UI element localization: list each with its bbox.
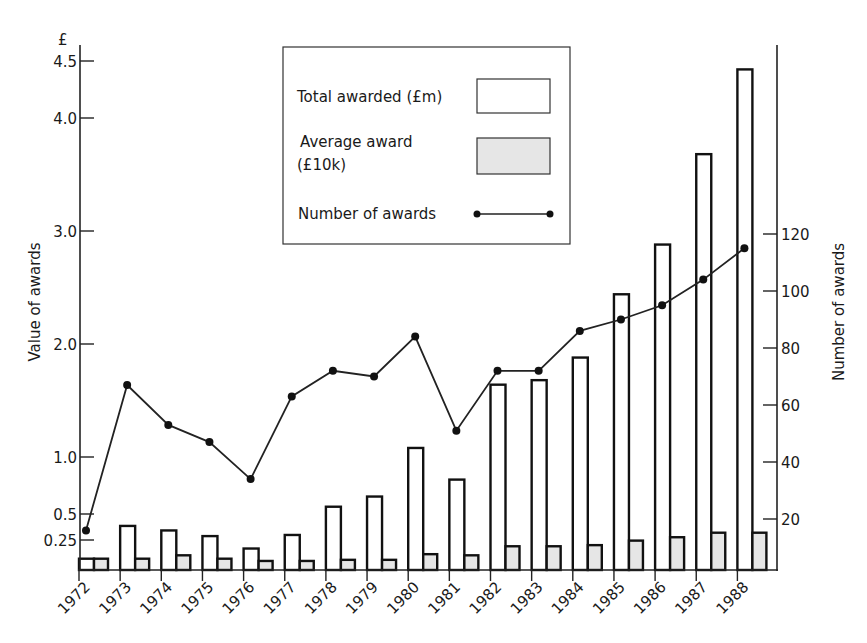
legend-swatch-total (477, 79, 550, 113)
right-tick-label: 40 (781, 454, 800, 472)
bar-total-1974 (161, 530, 176, 570)
x-label-1981: 1981 (424, 578, 464, 618)
bar-total-1978 (326, 507, 341, 570)
x-label-1988: 1988 (712, 578, 752, 618)
x-label-1986: 1986 (630, 578, 670, 618)
bar-total-1975 (202, 536, 217, 570)
data-point-dot-icon (494, 367, 502, 375)
data-point-dot-icon (411, 333, 419, 341)
x-label-1984: 1984 (548, 578, 588, 618)
x-label-1975: 1975 (178, 578, 218, 618)
bar-total-1972 (79, 559, 94, 570)
left-tick-label: 0.5 (53, 506, 77, 524)
right-tick-label: 60 (781, 397, 800, 415)
bar-total-1980 (408, 448, 423, 570)
data-point-dot-icon (123, 381, 131, 389)
x-label-1977: 1977 (260, 578, 300, 618)
bar-total-1977 (285, 535, 300, 570)
x-label-1980: 1980 (383, 578, 423, 618)
bar-average-1973 (135, 559, 149, 570)
x-label-1982: 1982 (466, 578, 506, 618)
legend-dot-icon (547, 211, 554, 218)
bar-average-1980 (423, 554, 437, 570)
left-tick-label: 4.0 (53, 110, 77, 128)
left-tick-label: 3.0 (53, 223, 77, 241)
data-point-dot-icon (535, 367, 543, 375)
x-label-1985: 1985 (589, 578, 629, 618)
x-label-1987: 1987 (671, 578, 711, 618)
data-point-dot-icon (740, 244, 748, 252)
legend-label-average-line1: Average award (300, 133, 412, 151)
bar-average-1974 (176, 555, 190, 570)
data-point-dot-icon (164, 421, 172, 429)
bar-average-1976 (259, 561, 273, 570)
x-label-1983: 1983 (507, 578, 547, 618)
x-label-1972: 1972 (54, 578, 94, 618)
data-point-dot-icon (658, 301, 666, 309)
x-axis-labels: 1972197319741975197619771978197919801981… (54, 578, 752, 618)
x-label-1976: 1976 (219, 578, 259, 618)
data-point-dot-icon (288, 392, 296, 400)
data-point-dot-icon (617, 316, 625, 324)
right-tick-label: 20 (781, 511, 800, 529)
bar-average-1977 (300, 561, 314, 570)
bar-average-1981 (464, 555, 478, 570)
data-point-dot-icon (452, 427, 460, 435)
bar-total-1973 (120, 526, 135, 570)
x-label-1979: 1979 (342, 578, 382, 618)
right-axis-title: Number of awards (830, 243, 848, 381)
bar-total-1987 (696, 154, 711, 570)
left-tick-label: 4.5 (53, 53, 77, 71)
x-label-1974: 1974 (136, 578, 176, 618)
legend-label-average-line2: (£10k) (297, 156, 346, 174)
left-tick-label: 2.0 (53, 336, 77, 354)
bar-total-1985 (614, 294, 629, 570)
bar-average-1987 (711, 533, 725, 570)
legend-label-total: Total awarded (£m) (296, 88, 442, 106)
left-axis-title: Value of awards (26, 242, 44, 361)
left-tick-label: 1.0 (53, 449, 77, 467)
bar-total-1986 (655, 245, 670, 570)
legend: Total awarded (£m) Average award (£10k) … (283, 47, 570, 244)
bar-total-1982 (491, 385, 506, 570)
bar-average-1978 (341, 560, 355, 570)
legend-swatch-average (477, 138, 550, 174)
bar-total-1976 (244, 549, 259, 570)
awards-chart: Total awarded (£m) Average award (£10k) … (0, 0, 867, 643)
bar-average-1983 (547, 546, 561, 570)
bar-average-1988 (752, 533, 766, 570)
legend-dot-icon (474, 211, 481, 218)
data-point-dot-icon (205, 438, 213, 446)
x-label-1973: 1973 (95, 578, 135, 618)
bar-total-1981 (449, 480, 464, 570)
bar-total-1983 (532, 380, 547, 570)
right-tick-label: 120 (781, 226, 810, 244)
data-point-dot-icon (247, 475, 255, 483)
bar-average-1982 (506, 546, 520, 570)
bar-total-1984 (573, 358, 588, 570)
left-axis-ticks: 0.250.51.02.03.04.04.5 (44, 53, 94, 550)
data-point-dot-icon (370, 373, 378, 381)
data-point-dot-icon (699, 276, 707, 284)
legend-label-number: Number of awards (298, 205, 436, 223)
bar-total-1988 (737, 69, 752, 570)
bar-total-1979 (367, 497, 382, 570)
left-axis-unit: £ (58, 31, 68, 49)
bar-average-1972 (94, 559, 108, 570)
bar-average-1985 (629, 541, 643, 570)
data-point-dot-icon (329, 367, 337, 375)
right-axis-ticks: 20406080100120 (763, 226, 810, 529)
right-tick-label: 100 (781, 283, 810, 301)
bar-average-1979 (382, 560, 396, 570)
left-tick-label: 0.25 (44, 532, 77, 550)
data-point-dot-icon (82, 526, 90, 534)
bar-average-1975 (217, 559, 231, 570)
data-point-dot-icon (576, 327, 584, 335)
bar-average-1984 (588, 545, 602, 570)
bar-average-1986 (670, 537, 684, 570)
x-label-1978: 1978 (301, 578, 341, 618)
right-tick-label: 80 (781, 340, 800, 358)
